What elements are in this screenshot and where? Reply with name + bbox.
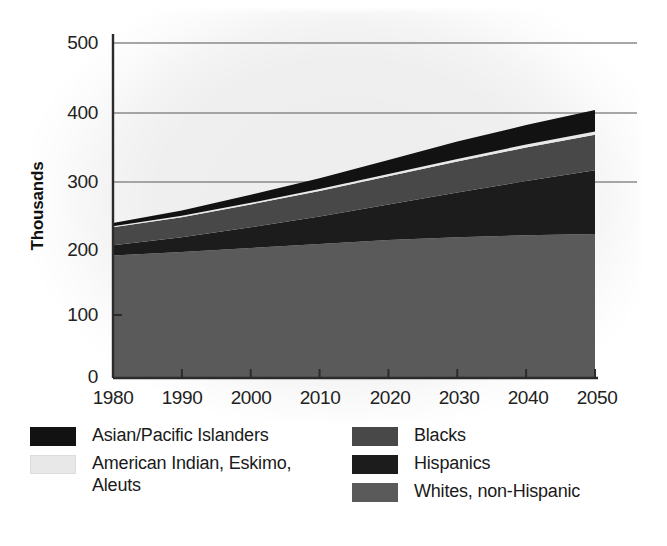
y-tick-label-400: 400	[40, 102, 98, 124]
stacked-area-chart: Thousands 500 400 300 200 100 0 1980 199…	[0, 0, 667, 420]
area-band	[113, 234, 595, 378]
y-tick-label-200: 200	[40, 239, 98, 261]
x-tick-label-2010: 2010	[288, 387, 352, 409]
legend-swatch-blacks	[352, 427, 398, 446]
x-tick-label-2050: 2050	[565, 387, 629, 409]
y-tick-label-500: 500	[40, 32, 98, 54]
x-tick-label-2020: 2020	[358, 387, 422, 409]
y-tick-label-300: 300	[40, 171, 98, 193]
legend-label: Whites, non-Hispanic	[414, 480, 580, 502]
chart-legend: Asian/Pacific Islanders American Indian,…	[0, 424, 667, 546]
legend-swatch-whites-non-hispanic	[352, 483, 398, 502]
legend-column-left: Asian/Pacific Islanders American Indian,…	[30, 424, 330, 502]
x-tick-label-2030: 2030	[427, 387, 491, 409]
legend-item: American Indian, Eskimo, Aleuts	[30, 452, 330, 496]
legend-label: Asian/Pacific Islanders	[92, 424, 268, 446]
plot-canvas	[0, 0, 667, 420]
figure-root: Thousands 500 400 300 200 100 0 1980 199…	[0, 0, 667, 546]
y-tick-label-100: 100	[40, 304, 98, 326]
legend-item: Blacks	[352, 424, 652, 446]
legend-label: Hispanics	[414, 452, 490, 474]
x-tick-label-2000: 2000	[219, 387, 283, 409]
x-tick-label-1990: 1990	[150, 387, 214, 409]
legend-item: Whites, non-Hispanic	[352, 480, 652, 502]
legend-swatch-asian-pacific-islanders	[30, 427, 76, 446]
legend-item: Hispanics	[352, 452, 652, 474]
y-tick-label-0: 0	[40, 366, 98, 388]
legend-column-right: Blacks Hispanics Whites, non-Hispanic	[352, 424, 652, 508]
legend-swatch-american-indian-eskimo-aleuts	[30, 455, 76, 474]
legend-label: American Indian, Eskimo, Aleuts	[92, 452, 291, 496]
legend-swatch-hispanics	[352, 455, 398, 474]
area-bands	[113, 110, 595, 378]
legend-item: Asian/Pacific Islanders	[30, 424, 330, 446]
legend-label: Blacks	[414, 424, 466, 446]
x-tick-label-2040: 2040	[496, 387, 560, 409]
x-tick-label-1980: 1980	[81, 387, 145, 409]
